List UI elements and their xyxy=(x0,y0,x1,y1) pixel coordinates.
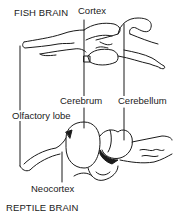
cortex-label: Cortex xyxy=(77,6,107,16)
reptile-brain-illustration xyxy=(20,122,172,180)
fish-brain-title: FISH BRAIN xyxy=(13,8,69,18)
olfactory-lobe-label: Olfactory lobe xyxy=(11,111,72,121)
brain-comparison-diagram: FISH BRAIN Cortex Cerebrum Cerebellum Ol… xyxy=(0,0,178,219)
cerebellum-label: Cerebellum xyxy=(117,96,168,106)
fish-brain-illustration xyxy=(23,18,165,69)
reptile-brain-title: REPTILE BRAIN xyxy=(5,203,80,213)
cerebrum-label: Cerebrum xyxy=(59,96,103,106)
neocortex-label: Neocortex xyxy=(30,184,75,194)
